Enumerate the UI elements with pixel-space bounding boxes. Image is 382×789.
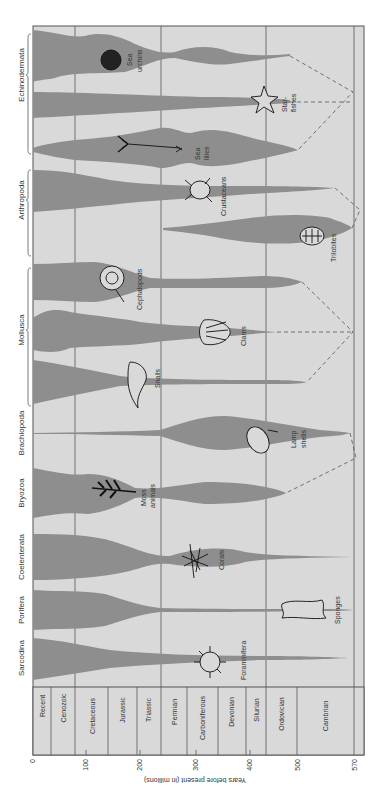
period-carboniferous: Carboniferous	[199, 696, 206, 740]
tick-100: 100	[82, 759, 89, 771]
phylum-braces	[26, 34, 31, 406]
phylum-porifera: Porifera	[17, 595, 26, 624]
tick-0: 0	[29, 759, 36, 763]
period-devonian: Devonian	[228, 697, 235, 727]
label-sea-urchins: Sea	[126, 53, 133, 66]
period-jurassic: Jurassic	[119, 697, 126, 723]
label-corals: Corals	[218, 549, 225, 570]
label-moss-animals: Moss	[140, 489, 147, 506]
label-sea-urchins-2: urchins	[136, 49, 143, 72]
phylum-arthropoda: Arthropoda	[17, 180, 26, 220]
axis-title: Years before present (in millions)	[144, 776, 246, 784]
phylum-brachiopoda: Brachiopoda	[17, 410, 26, 455]
brace-echinodermata	[26, 34, 31, 154]
phylum-sarcodina: Sarcodina	[17, 639, 26, 676]
period-cretaceous: Cretaceous	[89, 698, 96, 734]
tick-400: 400	[246, 759, 253, 771]
period-recent: Recent	[39, 695, 46, 717]
phylum-labels: Echinodermata Arthropoda Mollusca Brachi…	[17, 48, 26, 676]
label-moss-animals-2: animals	[149, 483, 156, 508]
sponge-icon	[282, 600, 326, 619]
label-starfishes-2: fishes	[290, 93, 297, 112]
period-cenozoic: Cenozoic	[60, 693, 67, 723]
period-permian: Permian	[171, 699, 178, 725]
label-crustaceans: Crustaceans	[220, 176, 227, 216]
label-starfishes: Star-	[281, 96, 288, 112]
label-foraminifera: Foraminifera	[240, 641, 247, 680]
label-sea-lilies: Sea	[194, 147, 201, 160]
period-cambrian: Cambrian	[322, 701, 329, 731]
period-silurian: Silurian	[253, 698, 260, 721]
tick-500: 500	[294, 759, 301, 771]
label-clams: Clams	[240, 326, 247, 346]
evolution-spindle-diagram: Sea urchins Star- fishes Sea lilies Crus…	[0, 0, 382, 789]
label-lamp-shells-2: shells	[300, 430, 307, 448]
period-strip: Recent Cenozoic Cretaceous Jurassic Tria…	[33, 687, 364, 755]
label-sponges: Sponges	[334, 596, 342, 624]
label-lamp-shells: Lamp	[290, 430, 298, 448]
brace-arthropoda	[26, 170, 31, 256]
label-cephalopods: Cephalopods	[136, 268, 144, 310]
period-ordovician: Ordovician	[278, 697, 285, 731]
period-triassic: Triassic	[145, 698, 152, 722]
phylum-coelenterata: Coelenterata	[17, 534, 26, 580]
phylum-echinodermata: Echinodermata	[17, 48, 26, 102]
label-trilobites: Trilobites	[330, 233, 337, 262]
tick-570: 570	[351, 759, 358, 771]
label-sea-lilies-2: lilies	[203, 146, 210, 160]
sea-urchin-icon	[101, 50, 121, 70]
phylum-bryozoa: Bryozoa	[17, 478, 26, 508]
label-snails: Snails	[154, 368, 161, 388]
tick-200: 200	[136, 759, 143, 771]
trilobite-icon	[300, 227, 324, 245]
tick-300: 300	[192, 759, 199, 771]
phylum-mollusca: Mollusca	[17, 314, 26, 346]
brace-mollusca	[26, 268, 31, 406]
